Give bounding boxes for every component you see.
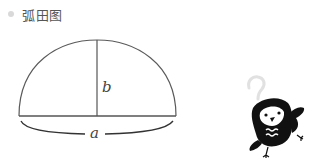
arc-field-diagram: b a xyxy=(0,0,322,163)
chord-label: a xyxy=(90,124,99,142)
chord-bracket-left xyxy=(21,121,85,134)
height-label: b xyxy=(102,78,112,96)
chord-bracket-right xyxy=(105,121,173,134)
bird-mascot-icon xyxy=(249,98,304,158)
